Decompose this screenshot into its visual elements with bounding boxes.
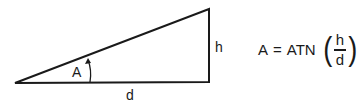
denominator: d bbox=[336, 52, 344, 68]
numerator: h bbox=[336, 32, 344, 48]
formula-lhs: A bbox=[258, 41, 268, 58]
left-paren: ( bbox=[323, 31, 332, 65]
formula: A = ATN ( h d ) bbox=[258, 32, 358, 68]
height-label: h bbox=[215, 40, 223, 54]
angle-label: A bbox=[72, 65, 81, 79]
formula-function: ATN bbox=[287, 41, 316, 58]
formula-equals: = bbox=[273, 41, 282, 58]
base-label: d bbox=[126, 88, 134, 102]
arrowhead-icon bbox=[85, 58, 91, 64]
fraction: h d bbox=[334, 32, 346, 68]
right-paren: ) bbox=[348, 31, 357, 65]
